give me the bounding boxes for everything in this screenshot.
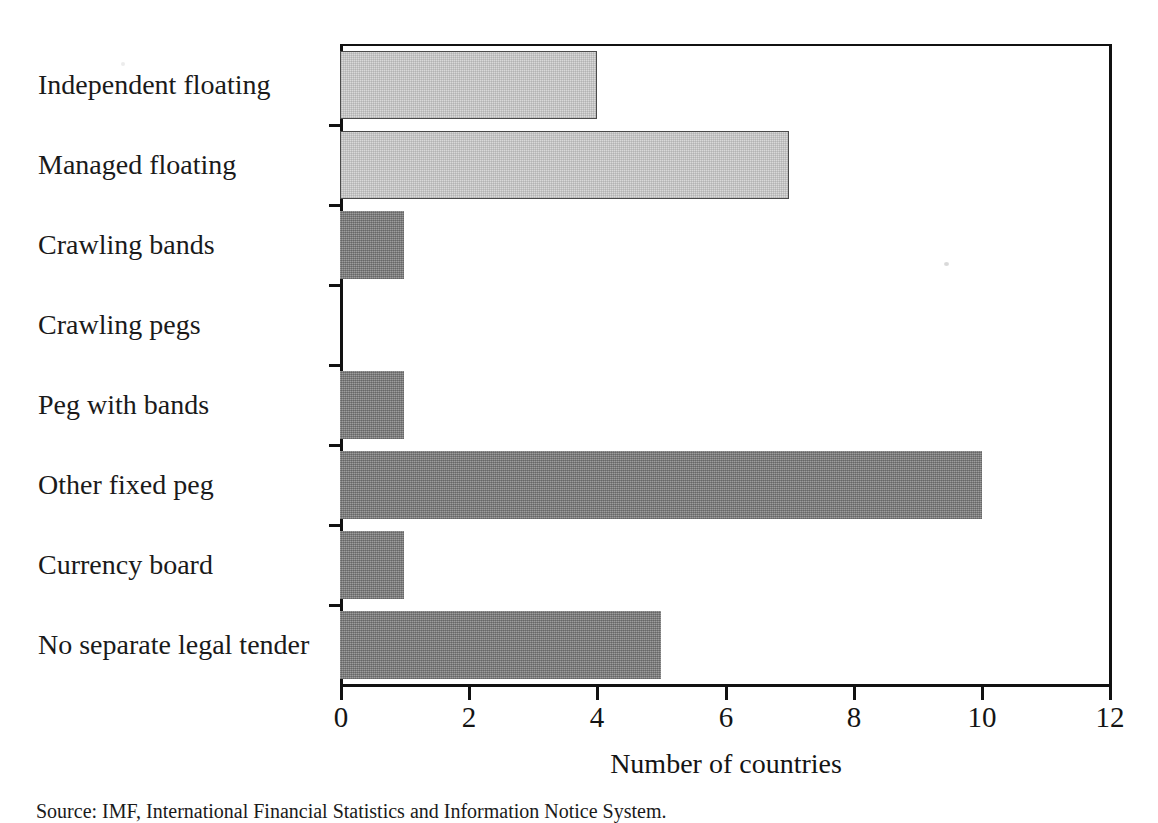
x-axis-tick-2 [468,687,471,700]
y-axis-label-4: Peg with bands [0,365,330,445]
x-axis-tick-10 [981,687,984,700]
x-axis-title: Number of countries [340,748,1112,780]
bar-no-separate-legal-tender [340,611,661,679]
y-axis-label-5: Other fixed peg [0,445,330,525]
x-axis-tick-label-8: 8 [824,703,884,732]
scan-speck [944,262,949,266]
x-axis-tick-12 [1109,687,1112,700]
x-axis-tick-8 [853,687,856,700]
x-axis-tick-label-12: 12 [1080,703,1140,732]
bar-peg-with-bands [340,371,404,439]
y-axis-category-labels: Independent floating Managed floating Cr… [0,45,330,685]
bar-managed-floating [340,131,789,199]
x-axis-tick-0 [340,687,343,700]
y-axis-label-0: Independent floating [0,45,330,125]
x-axis-tick-label-10: 10 [952,703,1012,732]
x-axis-tick-label-0: 0 [311,703,371,732]
x-axis-tick-6 [725,687,728,700]
scan-speck [121,62,125,66]
bar-other-fixed-peg [340,451,982,519]
y-axis-label-6: Currency board [0,525,330,605]
y-axis-label-2: Crawling bands [0,205,330,285]
y-axis-label-1: Managed floating [0,125,330,205]
x-axis-tick-label-2: 2 [439,703,499,732]
bar-crawling-bands [340,211,404,279]
bar-currency-board [340,531,404,599]
source-note: Source: IMF, International Financial Sta… [36,800,667,823]
bar-independent-floating [340,51,597,119]
x-axis-tick-label-4: 4 [567,703,627,732]
plot-area [340,45,1110,685]
y-axis-label-3: Crawling pegs [0,285,330,365]
x-axis-tick-4 [596,687,599,700]
x-axis-tick-label-6: 6 [696,703,756,732]
y-axis-label-7: No separate legal tender [0,605,330,685]
